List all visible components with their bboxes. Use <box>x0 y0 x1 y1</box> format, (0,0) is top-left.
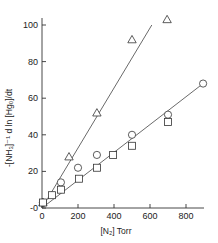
circle-marker <box>200 80 207 87</box>
y-axis-label: -[NH₃]⁻¹ d ln [Hg₀]/dt <box>4 88 14 167</box>
y-tick-label: -0 <box>30 203 38 213</box>
square-marker <box>129 142 136 149</box>
x-tick-label: 400 <box>106 211 121 221</box>
square-marker <box>39 199 46 206</box>
triangle-marker <box>128 35 136 42</box>
y-tick-label: 40 <box>28 130 38 140</box>
square-marker <box>93 164 100 171</box>
y-tick-label: 20 <box>28 166 38 176</box>
x-tick-label: 200 <box>70 211 85 221</box>
fit-lines <box>42 25 203 208</box>
y-tick-label: 80 <box>28 57 38 67</box>
circle-marker <box>164 111 171 118</box>
axes: 0200400600800-020406080100 <box>23 18 204 221</box>
circle-marker <box>128 131 135 138</box>
circle-marker <box>57 179 64 186</box>
chart: 0200400600800-020406080100 [N₂] Torr -[N… <box>0 0 218 243</box>
circle-marker <box>93 151 100 158</box>
square-marker <box>75 175 82 182</box>
x-tick-label: 600 <box>142 211 157 221</box>
triangle-marker <box>65 153 73 160</box>
x-tick-label: 0 <box>39 211 44 221</box>
triangle-marker <box>163 15 171 22</box>
square-marker <box>110 151 117 158</box>
circle-marker <box>74 164 81 171</box>
x-tick-label: 800 <box>178 211 193 221</box>
square-marker <box>165 118 172 125</box>
x-axis-label: [N₂] Torr <box>100 226 131 236</box>
y-tick-label: 60 <box>28 93 38 103</box>
data-points <box>39 15 207 206</box>
lower-fit <box>42 84 203 208</box>
square-marker <box>48 192 55 199</box>
y-tick-label: 100 <box>23 20 38 30</box>
square-marker <box>57 186 64 193</box>
